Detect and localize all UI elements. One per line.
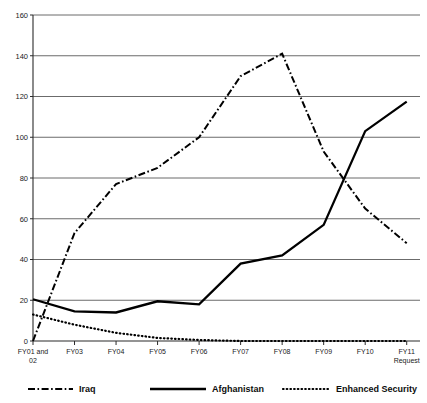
x-axis-tick-label: FY11Request: [394, 348, 420, 365]
legend-label-enhanced-security: Enhanced Security: [336, 384, 417, 394]
y-axis-tick-label: 40: [20, 255, 28, 264]
y-axis-tick-label: 20: [20, 296, 28, 305]
y-axis-tick-label: 60: [20, 215, 28, 224]
series-line-afghanistan: [33, 102, 407, 313]
series-line-enhanced-security: [33, 315, 407, 341]
line-chart: 020406080100120140160 FY01 and02FY03FY04…: [0, 0, 427, 403]
legend-label-afghanistan: Afghanistan: [212, 384, 264, 394]
y-axis-tick-label: 0: [24, 337, 28, 346]
y-axis-tick-label: 120: [15, 92, 28, 101]
x-axis-tick-label: FY07: [232, 348, 249, 355]
y-axis-tick-labels: 020406080100120140160: [15, 11, 28, 346]
x-axis-tick-label: FY04: [108, 348, 125, 355]
x-axis-tick-marks: [33, 341, 407, 345]
y-axis-tick-label: 140: [15, 52, 28, 61]
y-axis-tick-label: 160: [15, 11, 28, 20]
x-axis-tick-label: FY03: [66, 348, 83, 355]
chart-legend: IraqAfghanistanEnhanced Security: [28, 384, 417, 394]
x-axis-tick-label: FY08: [274, 348, 291, 355]
x-axis-tick-label: FY01 and02: [18, 348, 48, 364]
chart-canvas: 020406080100120140160 FY01 and02FY03FY04…: [0, 0, 427, 403]
x-axis-tick-label: FY05: [149, 348, 166, 355]
x-axis-tick-labels: FY01 and02FY03FY04FY05FY06FY07FY08FY09FY…: [18, 348, 420, 365]
y-axis-tick-label: 100: [15, 133, 28, 142]
x-axis-tick-label: FY09: [315, 348, 332, 355]
x-axis-tick-label: FY10: [357, 348, 374, 355]
x-axis-tick-label: FY06: [191, 348, 208, 355]
y-axis-tick-label: 80: [20, 174, 28, 183]
legend-label-iraq: Iraq: [79, 384, 96, 394]
gridlines: [33, 15, 420, 300]
